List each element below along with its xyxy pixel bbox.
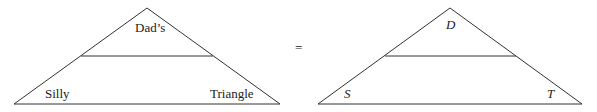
right-triangle: D S T	[318, 8, 582, 104]
triangle-diagram: Dad’s Silly Triangle = D S T	[0, 0, 597, 112]
label-dads: Dad’s	[135, 20, 165, 35]
left-triangle: Dad’s Silly Triangle	[14, 8, 280, 104]
equals-sign: =	[295, 40, 302, 55]
label-t: T	[547, 86, 555, 101]
label-triangle: Triangle	[210, 86, 254, 101]
label-s: S	[344, 86, 351, 101]
label-silly: Silly	[45, 86, 70, 101]
label-d: D	[445, 17, 456, 32]
